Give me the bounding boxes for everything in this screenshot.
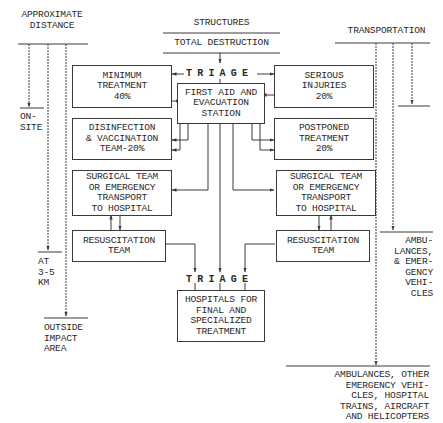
resuscitation-right-box: RESUSCITATION TEAM [276, 230, 370, 262]
surgical-team-right-text: SURGICAL TEAM OR EMERGENCY TRANSPORT TO … [290, 172, 362, 214]
minimum-treatment-box: MINIMUM TREATMENT 40% [72, 65, 172, 108]
disinfection-box: DISINFECTION & VACCINATION TEAM-20% [72, 118, 172, 160]
surgical-team-left-box: SURGICAL TEAM OR EMERGENCY TRANSPORT TO … [72, 170, 172, 216]
outside-impact-area-label: OUTSIDE IMPACT AREA [44, 323, 83, 355]
ambulances-emergency-label: AMBU- LANCES, & EMER- GENCY VEHI- CLES [385, 236, 433, 299]
minimum-treatment-text: MINIMUM TREATMENT 40% [97, 71, 147, 103]
postponed-treatment-box: POSTPONED TREATMENT 20% [274, 118, 374, 160]
surgical-team-right-box: SURGICAL TEAM OR EMERGENCY TRANSPORT TO … [276, 170, 376, 216]
resuscitation-right-text: RESUSCITATION TEAM [287, 236, 359, 257]
hospitals-text: HOSPITALS FOR FINAL AND SPECIALIZED TREA… [185, 295, 257, 337]
total-destruction-label: TOTAL DESTRUCTION [163, 38, 280, 49]
transportation-header: TRANSPORTATION [330, 26, 443, 37]
first-aid-station-text: FIRST AID AND EVACUATION STATION [185, 88, 257, 120]
resuscitation-left-text: RESUSCITATION TEAM [83, 236, 155, 257]
serious-injuries-box: SERIOUS INJURIES 20% [274, 65, 374, 108]
distance-header: APPROXIMATE DISTANCE [6, 10, 98, 31]
disinfection-text: DISINFECTION & VACCINATION TEAM-20% [86, 123, 158, 155]
on-site-label: ON- SITE [20, 112, 42, 133]
first-aid-station-box: FIRST AID AND EVACUATION STATION [177, 83, 265, 124]
triage-top-label: TRIAGE [186, 68, 253, 79]
resuscitation-left-box: RESUSCITATION TEAM [72, 230, 166, 262]
serious-injuries-text: SERIOUS INJURIES 20% [302, 71, 346, 103]
at-3-5-km-label: AT 3-5 KM [38, 257, 55, 289]
surgical-team-left-text: SURGICAL TEAM OR EMERGENCY TRANSPORT TO … [86, 172, 158, 214]
structures-header: STRUCTURES [163, 18, 280, 29]
postponed-treatment-text: POSTPONED TREATMENT 20% [299, 123, 349, 155]
hospitals-box: HOSPITALS FOR FINAL AND SPECIALIZED TREA… [177, 290, 265, 342]
triage-bottom-label: TRIAGE [186, 274, 253, 285]
all-transport-label: AMBULANCES, OTHER EMERGENCY VEHI- CLES, … [284, 370, 429, 423]
